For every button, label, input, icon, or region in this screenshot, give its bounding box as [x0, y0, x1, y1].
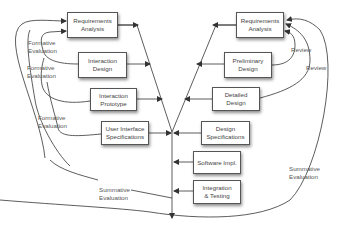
box-label: Detailed [225, 91, 248, 99]
interaction-design-box: InteractionDesign [78, 52, 127, 78]
box-label: Interaction [99, 92, 128, 100]
user-interface-specifications-box: User InterfaceSpecifications [101, 121, 149, 145]
review-label-1: Review [291, 46, 311, 54]
v-right-line [172, 25, 236, 132]
box-label: Design [233, 65, 264, 73]
preliminary-design-box: PreliminaryDesign [224, 52, 272, 78]
box-label: & Testing [202, 192, 231, 200]
summative-evaluation-label-right: SummativeEvaluation [289, 165, 320, 181]
box-label: Integration [202, 184, 231, 192]
software-impl-box: Software Impl. [193, 151, 241, 174]
box-label: Analysis [73, 25, 112, 33]
box-label: Software Impl. [197, 159, 237, 167]
box-label: Design [206, 125, 244, 133]
box-label: Design [225, 99, 248, 107]
summative-evaluation-label-left: SummativeEvaluation [99, 186, 130, 202]
formative-evaluation-label-3: FormativeEvaluation [38, 114, 67, 130]
integration-testing-box: Integration& Testing [193, 180, 241, 204]
box-label: Design [88, 65, 117, 73]
right-requirements-analysis-box: RequirementsAnalysis [236, 12, 284, 38]
design-specifications-box: DesignSpecifications [201, 121, 250, 145]
formative-evaluation-label-2: FormativeEvaluation [27, 64, 56, 80]
formative-evaluation-label-1: FormativeEvaluation [28, 39, 57, 55]
box-label: Interaction [88, 57, 117, 65]
detailed-design-box: DetailedDesign [212, 87, 260, 111]
left-requirements-analysis-box: RequirementsAnalysis [67, 12, 118, 38]
box-label: Preliminary [233, 57, 264, 65]
review-label-2: Review [306, 64, 326, 72]
box-label: Specifications [106, 133, 145, 141]
box-label: Prototype [99, 100, 128, 108]
box-label: Analysis [241, 25, 280, 33]
interaction-prototype-box: InteractionPrototype [90, 88, 137, 111]
box-label: User Interface [106, 125, 145, 133]
box-label: Requirements [73, 17, 112, 25]
box-label: Specifications [206, 133, 244, 141]
v-left-line [118, 25, 172, 132]
box-label: Requirements [241, 17, 280, 25]
